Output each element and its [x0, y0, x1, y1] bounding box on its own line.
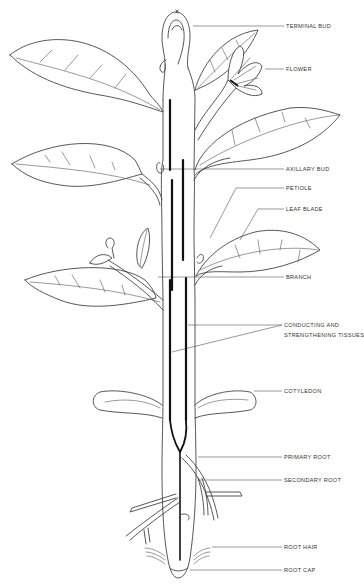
label-secondary-root: SECONDARY ROOT: [284, 477, 341, 483]
label-axillary-bud: AXILLARY BUD: [286, 166, 330, 172]
upper-left-leaf: [10, 40, 163, 112]
flower: [195, 46, 262, 140]
label-terminal-bud: TERMINAL BUD: [286, 23, 331, 29]
label-petiole: PETIOLE: [286, 185, 312, 191]
cotyledons: [93, 391, 256, 418]
lower-left-leaf-and-branch: [25, 228, 163, 310]
label-root-cap: ROOT CAP: [284, 567, 316, 573]
label-branch: BRANCH: [286, 274, 311, 280]
label-conducting-line1: CONDUCTING AND: [284, 322, 339, 328]
label-leaf-blade: LEAF BLADE: [286, 206, 323, 212]
roots: [126, 455, 242, 571]
leader-lines: [158, 26, 284, 570]
label-primary-root: PRIMARY ROOT: [284, 454, 331, 460]
label-root-hair: ROOT HAIR: [284, 544, 318, 550]
label-flower: FLOWER: [286, 66, 312, 72]
label-conducting-line2: STRENGTHENING TISSUES: [284, 332, 364, 338]
mid-left-leaf: [12, 143, 162, 205]
label-cotyledon: COTYLEDON: [284, 388, 322, 394]
